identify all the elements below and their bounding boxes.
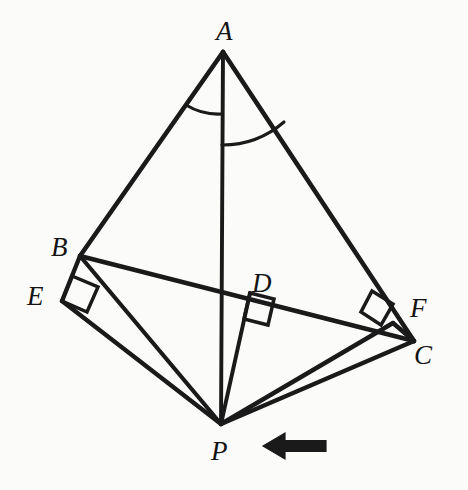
figure-canvas: A B C D E F P: [0, 0, 468, 490]
vertex-label-A: A: [216, 18, 233, 45]
segment-PC: [221, 341, 414, 424]
vertex-label-C: C: [414, 342, 432, 369]
perpendicular-PF: [221, 323, 393, 424]
segment-PB: [80, 256, 221, 424]
right-angle-at-F: [361, 291, 393, 325]
cevian-AP: [221, 52, 223, 424]
vertex-label-P: P: [211, 438, 228, 465]
vertex-label-B: B: [51, 234, 68, 261]
perpendicular-PE: [62, 301, 221, 424]
vertex-label-E: E: [27, 283, 44, 310]
geometry-figure: [0, 0, 468, 490]
pointer-arrow: [263, 433, 326, 459]
vertex-label-D: D: [252, 270, 272, 297]
vertex-label-F: F: [410, 295, 427, 322]
side-AB: [80, 52, 223, 256]
angle-arc-BAP: [186, 105, 222, 114]
